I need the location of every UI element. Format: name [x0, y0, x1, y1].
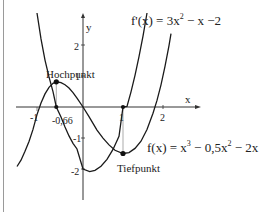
x-tick-1: 1: [119, 112, 124, 123]
f-formula: f(x) = x3 − 0,5x2 − 2x: [147, 139, 259, 155]
y-tick-minus1: -1: [73, 133, 81, 144]
root-marker-1: [121, 105, 125, 109]
hochpunkt-label: Hochpunkt: [46, 68, 95, 80]
y-tick-minus2: -2: [71, 166, 79, 177]
x-axis-label: x: [185, 93, 191, 105]
root-marker-minus066: [54, 105, 58, 109]
x-tick-minus1: -1: [30, 112, 38, 123]
y-axis-label: y: [86, 21, 92, 33]
x-axis-arrow-icon: [195, 105, 201, 109]
x-tick-2: 2: [160, 112, 165, 123]
function-plot: x y -1 -0,66 1 2 2 1 -1 -2 Hochpunkt Tie…: [0, 0, 263, 212]
f-prime-formula: f'(x) = 3x2 − x −2: [131, 12, 221, 28]
x-axis: [16, 105, 201, 109]
tiefpunkt-label: Tiefpunkt: [117, 162, 160, 174]
curve-f-prime: [37, 13, 147, 172]
y-axis-arrow-icon: [81, 13, 85, 18]
y-tick-2: 2: [74, 41, 79, 52]
tiefpunkt-marker: [120, 151, 125, 156]
x-tick-minus066: -0,66: [52, 115, 73, 126]
